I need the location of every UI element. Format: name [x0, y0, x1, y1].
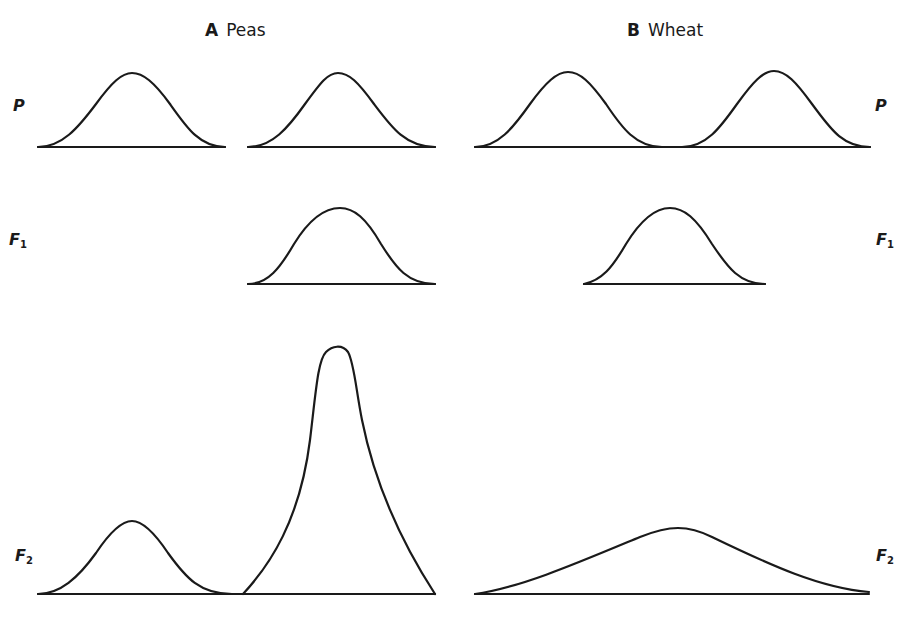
wheat-p-curve-right: [682, 71, 870, 147]
panel-a-peas: [38, 73, 435, 594]
peas-f1-curve: [248, 208, 435, 284]
panel-b-wheat: [475, 71, 870, 594]
wheat-f1-row: [584, 208, 765, 284]
distribution-diagram: [0, 0, 909, 618]
peas-f2-curve-small: [38, 521, 232, 594]
wheat-f2-curve: [475, 528, 869, 594]
peas-f2-curve-tall: [243, 347, 435, 594]
wheat-p-curve-left: [475, 72, 662, 147]
peas-f2-row: [38, 347, 435, 594]
peas-p-curve-right: [248, 73, 435, 147]
peas-p-row: [38, 73, 435, 147]
peas-f1-row: [248, 208, 435, 284]
peas-p-curve-left: [38, 73, 225, 147]
wheat-f2-row: [475, 528, 869, 594]
wheat-f1-curve: [584, 208, 765, 284]
wheat-p-row: [475, 71, 870, 147]
